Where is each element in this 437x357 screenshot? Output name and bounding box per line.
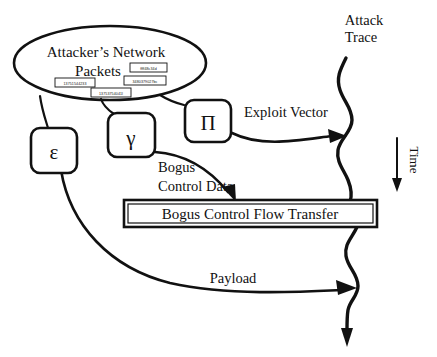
packet-box-2: 13751544233 (55, 78, 95, 87)
time-axis-arrowhead (392, 178, 402, 192)
connector-ellipse-to-epsilon (40, 96, 48, 128)
exploit-vector-arrowhead (328, 129, 347, 143)
packet-box-3-value: 3480379027bc (133, 80, 158, 84)
ellipse-title-line-2: Packets (75, 63, 121, 79)
attack-trace-label-line-2: Trace (345, 29, 377, 45)
connector-ellipse-to-pi (160, 95, 184, 105)
attack-trace-label-line-1: Attack (345, 12, 384, 28)
ellipse-title-line-1: Attacker’s Network (47, 44, 166, 60)
payload-arrowhead (336, 280, 357, 295)
packet-box-4-value: 13753754041l (99, 92, 123, 96)
bogus-control-data-label-line-2: Control Data (158, 178, 234, 194)
attack-trace-diagram: ε γ Π Attacker’s Network Packets ffff48c… (0, 0, 437, 357)
attack-trace-wave-lower (346, 227, 358, 330)
packet-box-1: ffff48c34d (130, 63, 167, 72)
attack-trace-end-arrowhead (341, 328, 353, 347)
diagram-canvas: ε γ Π Attacker’s Network Packets ffff48c… (0, 0, 437, 357)
packet-box-2-value: 13751544233 (63, 82, 86, 86)
payload-label: Payload (210, 270, 257, 286)
packet-box-3: 3480379027bc (124, 76, 166, 85)
bogus-control-data-label-line-1: Bogus (158, 159, 195, 175)
packet-box-1-value: ffff48c34d (140, 67, 157, 71)
exploit-vector-label: Exploit Vector (244, 104, 328, 120)
exploit-vector-arrow (232, 133, 332, 142)
bogus-control-flow-transfer-label: Bogus Control Flow Transfer (162, 206, 338, 222)
packet-box-4: 13753754041l (91, 88, 131, 97)
node-epsilon-label: ε (50, 140, 59, 164)
attack-trace-wave-upper (338, 58, 352, 202)
node-gamma-label: γ (125, 126, 135, 150)
node-pi-label: Π (200, 111, 215, 135)
time-axis-label: Time (407, 147, 422, 174)
